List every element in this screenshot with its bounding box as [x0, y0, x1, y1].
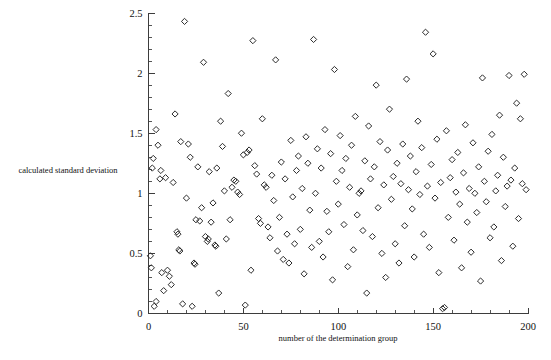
data-point-marker [310, 36, 316, 42]
data-point-marker [489, 131, 495, 137]
data-point-marker [447, 175, 453, 181]
data-point-marker [345, 264, 351, 270]
data-point-marker [364, 290, 370, 296]
data-point-marker [278, 159, 284, 165]
data-point-marker [373, 82, 379, 88]
data-point-marker [309, 244, 315, 250]
data-point-marker [221, 188, 227, 194]
data-point-marker [493, 188, 499, 194]
data-point-marker [449, 157, 455, 163]
data-point-marker [481, 178, 487, 184]
data-point-marker [320, 254, 326, 260]
y-tick-label: 1 [137, 188, 142, 199]
data-point-marker [407, 153, 413, 159]
y-axis-title: calculated standard deviation [18, 165, 118, 175]
data-point-marker [157, 176, 163, 182]
data-point-marker [269, 172, 275, 178]
x-tick-label: 200 [520, 321, 536, 332]
data-point-marker [419, 145, 425, 151]
data-point-marker [424, 183, 430, 189]
x-tick-label: 150 [425, 321, 441, 332]
data-point-marker [210, 200, 216, 206]
data-point-marker [495, 172, 501, 178]
data-point-marker [150, 155, 156, 161]
data-point-marker [432, 195, 438, 201]
data-point-marker [512, 165, 518, 171]
data-point-marker [347, 184, 353, 190]
data-point-marker [318, 165, 324, 171]
data-point-marker [514, 100, 520, 106]
data-point-marker [158, 167, 164, 173]
data-point-marker [388, 196, 394, 202]
data-point-marker [199, 205, 205, 211]
data-point-marker [316, 238, 322, 244]
data-point-marker [276, 214, 282, 220]
data-point-marker [413, 169, 419, 175]
plot-canvas: 00.511.522.5 050100150200 number of the … [0, 0, 551, 360]
data-point-marker [517, 116, 523, 122]
data-point-marker [506, 72, 512, 78]
data-point-marker [422, 29, 428, 35]
data-point-marker [149, 165, 155, 171]
data-point-marker [341, 221, 347, 227]
data-point-marker [322, 126, 328, 132]
data-point-marker [476, 164, 482, 170]
data-point-marker [290, 194, 296, 200]
data-point-marker [438, 179, 444, 185]
data-point-marker [288, 137, 294, 143]
data-point-marker [369, 233, 375, 239]
data-point-marker [242, 302, 248, 308]
data-point-marker [219, 143, 225, 149]
data-point-marker [250, 38, 256, 44]
data-point-marker [400, 141, 406, 147]
data-point-marker [218, 118, 224, 124]
data-point-marker [331, 66, 337, 72]
data-point-marker [381, 182, 387, 188]
y-tick-label: 2 [137, 68, 142, 79]
data-point-marker [415, 118, 421, 124]
data-point-marker [504, 183, 510, 189]
y-tick-label: 0 [137, 308, 142, 319]
data-point-marker [367, 176, 373, 182]
data-point-marker [502, 203, 508, 209]
y-tick-label: 1.5 [129, 128, 142, 139]
data-point-marker [282, 176, 288, 182]
data-point-marker [479, 75, 485, 81]
data-point-marker [329, 277, 335, 283]
data-point-marker [451, 237, 457, 243]
data-point-marker [496, 112, 502, 118]
data-point-marker [354, 212, 360, 218]
data-point-marker [185, 141, 191, 147]
data-point-marker [180, 301, 186, 307]
data-point-marker [386, 106, 392, 112]
data-point-marker [523, 187, 529, 193]
data-point-marker [464, 219, 470, 225]
data-point-marker [286, 260, 292, 266]
data-point-marker [521, 71, 527, 77]
y-axis-minor-ticks [149, 25, 153, 301]
data-point-marker [200, 59, 206, 65]
data-point-marker [307, 207, 313, 213]
data-point-marker [384, 147, 390, 153]
data-point-marker [460, 170, 466, 176]
data-point-marker [274, 248, 280, 254]
data-point-marker [178, 139, 184, 145]
data-point-marker [195, 164, 201, 170]
data-point-marker [474, 209, 480, 215]
data-point-marker [421, 231, 427, 237]
x-tick-label: 50 [238, 321, 249, 332]
data-point-marker [457, 201, 463, 207]
data-point-marker [161, 288, 167, 294]
data-point-marker [352, 113, 358, 119]
data-point-marker [398, 181, 404, 187]
data-point-marker [252, 163, 258, 169]
data-point-marker [314, 146, 320, 152]
data-point-marker [426, 244, 432, 250]
scatter-plot-figure: 00.511.522.5 050100150200 number of the … [0, 0, 551, 360]
data-point-marker [301, 271, 307, 277]
data-point-marker [350, 247, 356, 253]
data-point-marker [411, 254, 417, 260]
data-point-marker [343, 155, 349, 161]
data-point-marker [172, 111, 178, 117]
data-point-marker [470, 140, 476, 146]
